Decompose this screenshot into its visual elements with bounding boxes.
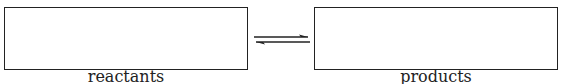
reactants-box[interactable]	[4, 7, 248, 70]
products-box[interactable]	[314, 7, 558, 70]
equilibrium-arrow-icon	[252, 30, 312, 50]
products-label: products	[314, 67, 558, 84]
reactants-label: reactants	[4, 67, 248, 84]
